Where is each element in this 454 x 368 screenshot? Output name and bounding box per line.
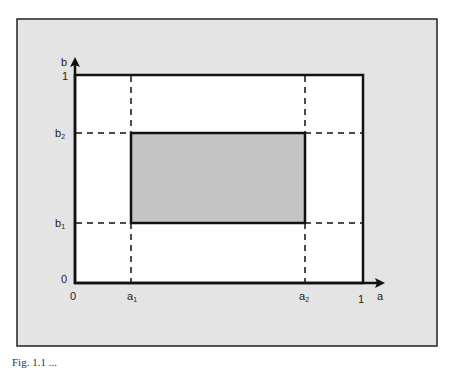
x-max-label: 1 <box>358 293 364 305</box>
y-max-label: 1 <box>62 70 68 82</box>
tick-a2-sub: 2 <box>305 296 309 303</box>
tick-b1-sub: 1 <box>61 223 65 230</box>
x-axis-label: a <box>377 290 384 302</box>
x-origin-label: 0 <box>70 290 76 302</box>
tick-a1-sub: 1 <box>133 296 137 303</box>
y-origin-label: 0 <box>61 273 67 285</box>
tick-b2-sub: 2 <box>61 133 65 140</box>
figure-caption: Fig. 1.1 ... <box>12 356 57 368</box>
y-axis-label: b <box>61 56 67 68</box>
shaded-region <box>131 133 305 223</box>
